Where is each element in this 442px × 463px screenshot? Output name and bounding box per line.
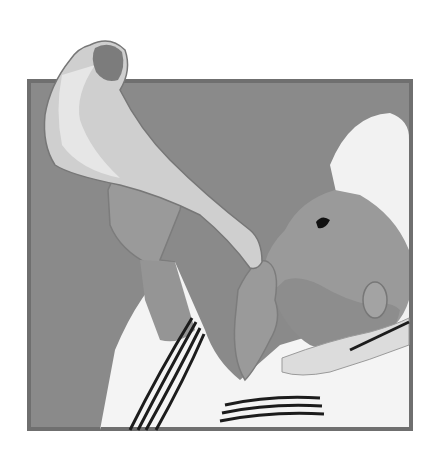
shofar-illustration bbox=[0, 0, 442, 463]
ear bbox=[363, 282, 387, 318]
